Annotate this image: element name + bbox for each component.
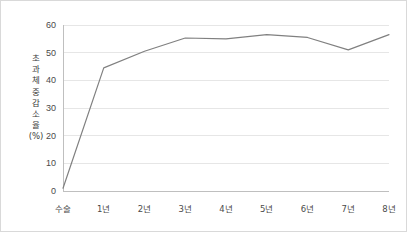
x-tick-label: 수술 xyxy=(55,204,71,214)
line-chart-svg: 0102030405060 수술1년2년3년4년5년6년7년8년 xyxy=(1,1,407,232)
y-tick-label: 40 xyxy=(46,75,56,85)
data-series-line xyxy=(63,35,389,189)
x-tick-label: 6년 xyxy=(301,204,314,214)
y-tick-label: 0 xyxy=(51,186,56,196)
x-tick-label: 4년 xyxy=(219,204,232,214)
gridlines xyxy=(63,25,389,191)
plot-area-container: 0102030405060 수술1년2년3년4년5년6년7년8년 xyxy=(1,1,407,232)
y-tick-label: 60 xyxy=(46,20,56,30)
x-tick-label: 3년 xyxy=(179,204,192,214)
y-tick-label: 50 xyxy=(46,48,56,58)
y-tick-label: 10 xyxy=(46,158,56,168)
x-tick-label: 8년 xyxy=(382,204,395,214)
y-axis-tick-labels: 0102030405060 xyxy=(46,20,56,196)
x-tick-label: 2년 xyxy=(138,204,151,214)
y-tick-label: 30 xyxy=(46,103,56,113)
x-tick-label: 5년 xyxy=(260,204,273,214)
series-polyline xyxy=(63,35,389,189)
chart-figure: 초 과 체 중 감 소 율 (%) 0102030405060 수술1년2년3년… xyxy=(0,0,407,232)
x-tick-label: 7년 xyxy=(342,204,355,214)
x-axis-tick-labels: 수술1년2년3년4년5년6년7년8년 xyxy=(55,204,396,214)
y-tick-label: 20 xyxy=(46,131,56,141)
x-tick-label: 1년 xyxy=(97,204,110,214)
